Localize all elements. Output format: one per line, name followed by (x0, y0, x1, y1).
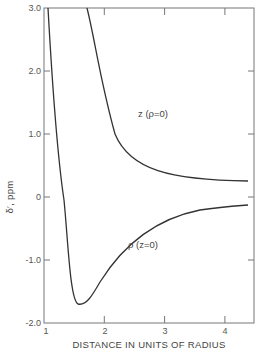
x-tick-label: 3 (162, 326, 167, 336)
x-ticks-top (104, 8, 225, 15)
x-ticks-bottom (104, 316, 225, 323)
curve-rho-z0 (48, 8, 248, 304)
z-curve-label: z (ρ=0) (138, 108, 168, 119)
x-axis-title: DISTANCE IN UNITS OF RADIUS (72, 339, 225, 350)
curve-z-rho0 (87, 8, 248, 181)
plot-area (48, 8, 248, 304)
x-tick-label: 4 (222, 326, 227, 336)
y-tick-label: -1.0 (25, 255, 41, 265)
x-tick-label: 1 (43, 326, 48, 336)
y-tick-label: 0 (36, 192, 41, 202)
x-tick-label: 2 (102, 326, 107, 336)
plot-frame (44, 8, 254, 323)
chart: 3.0 2.0 1.0 0 -1.0 -2.0 1 2 3 4 DISTANCE… (0, 0, 260, 351)
y-tick-label: 1.0 (28, 129, 41, 139)
y-tick-label: 3.0 (28, 3, 41, 13)
y-ticks-right (248, 71, 254, 260)
y-axis-title: δ′, ppm (4, 181, 15, 214)
y-tick-label: -2.0 (25, 318, 41, 328)
rho-curve-label: ρ (z=0) (128, 239, 158, 250)
y-tick-label: 2.0 (28, 66, 41, 76)
y-ticks-left (44, 71, 50, 260)
